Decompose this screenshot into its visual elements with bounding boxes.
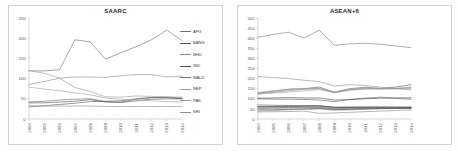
legend-item-mald[interactable]: MALD <box>180 72 205 84</box>
legend-label: NEP <box>193 87 202 91</box>
x-axis-tick-label: 2013 <box>164 123 169 133</box>
y-axis-tick-label: 250 <box>18 16 26 21</box>
y-axis-tick-label: 200 <box>18 36 26 41</box>
series-line-aus <box>258 30 411 48</box>
x-axis-tick-label: 2005 <box>42 123 47 133</box>
chart-panel-asean: ASEAN+6 05010015020025030035040045050020… <box>229 0 458 151</box>
plot-area-asean: 0501001502002503003504004505002004200520… <box>238 6 451 144</box>
y-axis-tick-label: 0 <box>252 117 255 122</box>
legend-item-pak[interactable]: PAK <box>180 95 205 107</box>
y-axis-tick-label: 150 <box>247 86 255 91</box>
figure-container: SAARC 0501001502002502004200520062007200… <box>0 0 458 151</box>
chart-frame-asean: ASEAN+6 05010015020025030035040045050020… <box>237 5 452 145</box>
x-axis-tick-label: 2005 <box>271 123 276 133</box>
x-axis-tick-label: 2013 <box>393 123 398 133</box>
y-axis-tick-label: 100 <box>18 76 26 81</box>
series-line-mald <box>29 30 182 71</box>
legend-swatch-icon <box>180 54 191 55</box>
legend-label: AFG <box>193 30 202 34</box>
x-axis-tick-label: 2012 <box>149 123 154 133</box>
series-line-jap <box>258 77 411 90</box>
chart-panel-saarc: SAARC 0501001502002502004200520062007200… <box>0 0 229 151</box>
y-axis-tick-label: 0 <box>23 117 26 122</box>
y-axis-tick-label: 150 <box>18 56 26 61</box>
y-axis-tick-label: 400 <box>247 36 255 41</box>
x-axis-tick-label: 2006 <box>286 123 291 133</box>
legend-label: BHU <box>193 53 202 57</box>
x-axis-tick-label: 2009 <box>103 123 108 133</box>
y-axis-tick-label: 100 <box>247 96 255 101</box>
legend-swatch-icon <box>180 100 191 101</box>
legend-label: MALD <box>193 76 205 80</box>
legend-swatch-icon <box>180 43 191 44</box>
legend-swatch-icon <box>180 31 191 32</box>
y-axis-tick-label: 450 <box>247 26 255 31</box>
legend-swatch-icon <box>180 66 191 67</box>
legend-item-bang[interactable]: BANG <box>180 38 205 50</box>
legend-swatch-icon <box>180 112 191 113</box>
y-axis-tick-label: 50 <box>250 107 255 112</box>
x-axis-tick-label: 2009 <box>332 123 337 133</box>
x-axis-tick-label: 2007 <box>73 123 78 133</box>
chart-svg-asean: 0501001502002503003504004505002004200520… <box>238 6 453 145</box>
x-axis-tick-label: 2006 <box>57 123 62 133</box>
x-axis-tick-label: 2008 <box>88 123 93 133</box>
x-axis-tick-label: 2007 <box>302 123 307 133</box>
legend-label: PAK <box>193 99 201 103</box>
y-axis-tick-label: 350 <box>247 46 255 51</box>
x-axis-tick-label: 2008 <box>317 123 322 133</box>
x-axis-tick-label: 2010 <box>347 123 352 133</box>
y-axis-tick-label: 50 <box>21 96 26 101</box>
legend-label: SRI <box>193 110 200 114</box>
series-line-thai <box>258 106 411 108</box>
series-line-nep <box>29 71 182 98</box>
x-axis-tick-label: 2012 <box>378 123 383 133</box>
x-axis-tick-label: 2004 <box>27 123 32 133</box>
x-axis-tick-label: 2010 <box>118 123 123 133</box>
series-line-pak <box>29 87 182 102</box>
legend-item-bhu[interactable]: BHU <box>180 49 205 61</box>
y-axis-tick-label: 300 <box>247 56 255 61</box>
y-axis-tick-label: 250 <box>247 66 255 71</box>
legend-item-afg[interactable]: AFG <box>180 26 205 38</box>
x-axis-tick-label: 2011 <box>134 123 139 133</box>
x-axis-tick-label: 2011 <box>363 123 368 133</box>
legend-label: BANG <box>193 41 205 45</box>
legend-swatch-icon <box>180 77 191 78</box>
legend-item-sri[interactable]: SRI <box>180 107 205 119</box>
x-axis-tick-label: 2004 <box>256 123 261 133</box>
y-axis-tick-label: 200 <box>247 76 255 81</box>
legend-swatch-icon <box>180 89 191 90</box>
legend-item-ind[interactable]: IND <box>180 61 205 73</box>
series-line-sri <box>29 106 182 107</box>
legend-saarc: AFGBANGBHUINDMALDNEPPAKSRI <box>180 26 205 151</box>
legend-item-nep[interactable]: NEP <box>180 84 205 96</box>
x-axis-tick-label: 2014 <box>409 123 414 133</box>
legend-label: IND <box>193 64 200 68</box>
y-axis-tick-label: 500 <box>247 16 255 21</box>
